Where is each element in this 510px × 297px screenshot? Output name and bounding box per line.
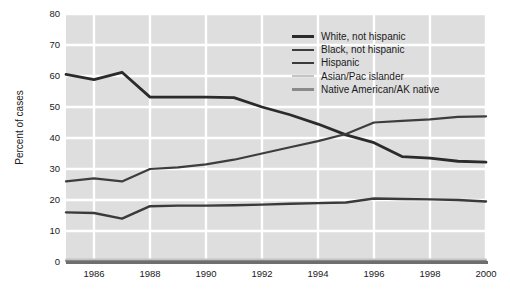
- x-axis-line: [66, 261, 488, 264]
- legend-label: White, not hispanic: [321, 31, 406, 42]
- y-tick-label: 80: [30, 9, 60, 19]
- line-chart: 01020304050607080 Percent of cases 19861…: [0, 0, 510, 297]
- x-tick-label: 1988: [128, 268, 172, 279]
- x-tick-label: 1998: [408, 268, 452, 279]
- y-tick-label: 20: [30, 195, 60, 205]
- legend-swatch-icon: [292, 75, 314, 78]
- x-tick-label: 1986: [72, 268, 116, 279]
- legend-item: Native American/AK native: [292, 83, 439, 96]
- series-line: [66, 198, 486, 218]
- series-line: [66, 116, 486, 181]
- y-tick-label: 40: [30, 133, 60, 143]
- legend-label: Native American/AK native: [321, 84, 439, 95]
- y-tick-label: 70: [30, 40, 60, 50]
- y-axis-tick-labels: 01020304050607080: [28, 0, 60, 297]
- y-axis-title: Percent of cases: [14, 83, 25, 173]
- x-tick-label: 1990: [184, 268, 228, 279]
- x-tick-label: 1992: [240, 268, 284, 279]
- legend-label: Asian/Pac islander: [321, 71, 404, 82]
- y-tick-label: 60: [30, 71, 60, 81]
- legend-swatch-icon: [292, 62, 314, 65]
- legend-item: Hispanic: [292, 56, 439, 69]
- legend-swatch-icon: [292, 88, 314, 91]
- y-tick-label: 10: [30, 226, 60, 236]
- legend-item: White, not hispanic: [292, 30, 439, 43]
- y-tick-label: 30: [30, 164, 60, 174]
- legend-swatch-icon: [292, 35, 314, 38]
- x-tick-label: 1994: [296, 268, 340, 279]
- legend-swatch-icon: [292, 49, 314, 52]
- x-tick-label: 1996: [352, 268, 396, 279]
- y-tick-label: 50: [30, 102, 60, 112]
- legend-item: Black, not hispanic: [292, 43, 439, 56]
- x-tick-label: 2000: [464, 268, 508, 279]
- legend: White, not hispanicBlack, not hispanicHi…: [292, 30, 439, 96]
- legend-label: Black, not hispanic: [321, 44, 404, 55]
- legend-label: Hispanic: [321, 57, 359, 68]
- x-axis-tick-labels: 19861988199019921994199619982000: [0, 268, 510, 284]
- legend-item: Asian/Pac islander: [292, 70, 439, 83]
- y-tick-label: 0: [30, 257, 60, 267]
